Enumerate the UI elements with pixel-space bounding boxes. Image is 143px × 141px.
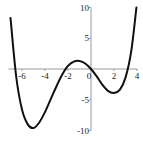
x-tick-label: -4 xyxy=(41,71,49,81)
function-plot: -6-4-2024 -10-5510 xyxy=(0,0,143,141)
x-tick-label: -6 xyxy=(18,71,26,81)
x-tick-label: -2 xyxy=(64,71,72,81)
x-tick-label: 4 xyxy=(135,71,140,81)
y-tick-label: -5 xyxy=(82,95,90,105)
x-tick-label: 0 xyxy=(87,71,92,81)
x-tick-label: 2 xyxy=(112,71,117,81)
x-axis-ticks: -6-4-2024 xyxy=(18,69,140,81)
function-curve xyxy=(11,8,137,129)
y-tick-label: -10 xyxy=(77,126,89,136)
axes xyxy=(9,8,138,131)
y-tick-label: 5 xyxy=(85,33,90,43)
y-tick-label: 10 xyxy=(80,3,90,13)
